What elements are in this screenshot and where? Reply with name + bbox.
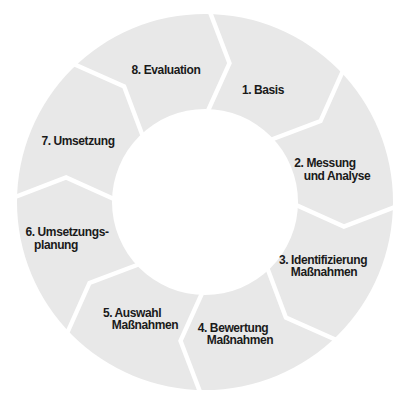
segment-label-6-line-2: planung: [34, 239, 78, 252]
segment-label-8: 8. Evaluation: [132, 64, 201, 77]
segment-label-5-line-2: Maßnahmen: [112, 319, 178, 332]
segment-label-4-line-2: Maßnahmen: [207, 334, 273, 347]
cycle-ring-graphic: [0, 0, 394, 404]
segment-label-2-line-2: und Analyse: [304, 170, 371, 183]
segment-label-1: 1. Basis: [242, 84, 284, 97]
segment-label-7: 7. Umsetzung: [41, 135, 114, 148]
segment-label-3-line-2: Maßnahmen: [291, 266, 357, 279]
cycle-diagram: 1. Basis 2. Messung und Analyse 3. Ident…: [0, 0, 394, 404]
